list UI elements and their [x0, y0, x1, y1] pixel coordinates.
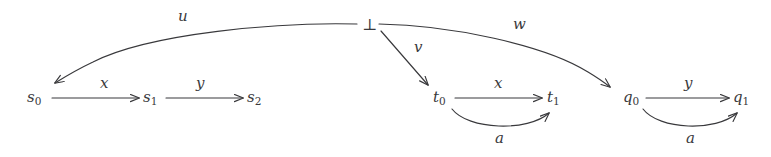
node-s1-base: s [143, 88, 151, 106]
node-s2-sub: 2 [255, 95, 262, 107]
edge-label-v: v [414, 40, 422, 55]
node-t0-sub: 0 [439, 95, 446, 107]
node-q1-base: q [733, 88, 743, 106]
edge-label-t0-t1-x: x [494, 76, 502, 91]
node-q0: q0 [623, 90, 639, 106]
node-s1-sub: 1 [151, 95, 158, 107]
node-s2-base: s [247, 88, 255, 106]
diagram-edges-layer [0, 0, 771, 157]
node-s0: s0 [27, 90, 41, 106]
node-t1-sub: 1 [553, 95, 560, 107]
edge-label-w: w [513, 17, 526, 32]
commutative-diagram: ⊥ s0 s1 s2 t0 t1 q0 q1 u v w x y x a y a [0, 0, 771, 157]
node-s1: s1 [143, 90, 157, 106]
node-q1-sub: 1 [743, 95, 750, 107]
node-q0-base: q [623, 88, 633, 106]
edge-t0-t1-a-path [452, 109, 549, 126]
node-s0-base: s [27, 88, 35, 106]
edge-label-u: u [178, 9, 188, 24]
node-q1: q1 [733, 90, 749, 106]
edge-label-s1-s2-y: y [196, 76, 204, 91]
node-s2: s2 [247, 90, 261, 106]
edge-q0-q1-a-path [643, 109, 737, 126]
edge-label-q0-q1-a: a [686, 131, 695, 146]
edge-label-s0-s1-x: x [100, 76, 108, 91]
node-t0: t0 [433, 90, 446, 106]
node-s0-sub: 0 [35, 95, 42, 107]
edge-label-q0-q1-y: y [684, 76, 692, 91]
node-t1: t1 [547, 90, 560, 106]
node-bot-base: ⊥ [362, 15, 377, 34]
node-q0-sub: 0 [633, 95, 640, 107]
node-bot: ⊥ [362, 17, 377, 33]
edge-label-t0-t1-a: a [495, 131, 504, 146]
